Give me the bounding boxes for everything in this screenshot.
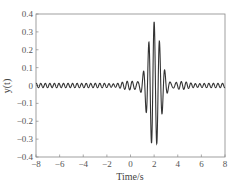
- chart: −8−6−4−202468 0.40.30.20.10−0.1−0.2−0.3−…: [0, 0, 232, 185]
- x-tick-label: −2: [102, 159, 112, 169]
- x-tick-label: 8: [223, 159, 228, 169]
- x-tick-label: 0: [128, 159, 133, 169]
- x-tick-label: 2: [152, 159, 157, 169]
- x-tick-label: 6: [199, 159, 204, 169]
- y-axis-ticks: 0.40.30.20.10−0.1−0.2−0.3−0.4: [17, 9, 39, 162]
- x-tick-label: −4: [78, 159, 88, 169]
- y-tick-label: 0.3: [22, 27, 34, 37]
- y-axis-title: y(t): [1, 79, 13, 93]
- y-tick-label: 0.4: [22, 9, 34, 19]
- y-tick-label: 0.2: [22, 45, 33, 55]
- x-tick-label: −6: [55, 159, 65, 169]
- y-tick-label: 0.1: [22, 63, 33, 73]
- y-tick-label: −0.3: [17, 134, 34, 144]
- x-axis-title: Time/s: [116, 171, 144, 182]
- x-tick-label: 4: [176, 159, 181, 169]
- y-tick-label: −0.4: [17, 152, 34, 162]
- y-tick-label: −0.1: [17, 98, 33, 108]
- y-tick-label: 0: [29, 81, 34, 91]
- y-tick-label: −0.2: [17, 116, 33, 126]
